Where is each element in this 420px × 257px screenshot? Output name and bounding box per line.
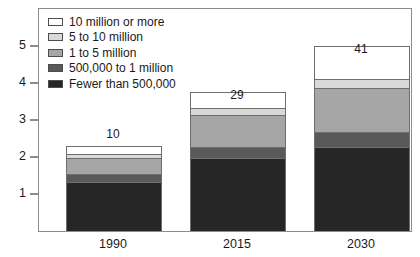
legend-label-fewer-than-500000: Fewer than 500,000 [69,78,176,90]
bar-2015-segment-fewer-than-500000 [191,158,285,231]
bar-1990-segment-10-million-or-more [67,147,161,154]
bar-2015-segment-1-to-5-million [191,115,285,147]
bar-2030-segment-500000-to-1-million [315,132,409,147]
bar-2030-segment-1-to-5-million [315,88,409,132]
bar-2030-segment-fewer-than-500000 [315,147,409,231]
bar-1990[interactable] [66,146,162,231]
x-axis-label-2015: 2015 [189,238,285,251]
legend-item-1-to-5-million: 1 to 5 million [48,45,176,61]
y-axis-label-1: 1 [0,187,26,199]
bar-2015-segment-5-to-10-million [191,108,285,115]
legend-item-5-to-10-million: 5 to 10 million [48,30,176,46]
bar-2015-segment-500000-to-1-million [191,147,285,158]
legend-swatch-icon-500000-to-1-million [48,64,63,72]
legend-swatch-icon-10-million-or-more [48,18,63,26]
legend-label-5-to-10-million: 5 to 10 million [69,31,143,43]
legend-label-1-to-5-million: 1 to 5 million [69,47,136,59]
bar-2030[interactable] [314,46,410,231]
x-axis-label-2030: 2030 [313,238,409,251]
bar-2030-segment-5-to-10-million [315,79,409,88]
legend-item-10-million-or-more: 10 million or more [48,14,176,30]
legend: 10 million or more 5 to 10 million 1 to … [48,14,176,92]
legend-item-500000-to-1-million: 500,000 to 1 million [48,61,176,77]
y-axis-label-3: 3 [0,113,26,125]
bar-value-label-1990: 10 [65,128,161,140]
legend-swatch-icon-fewer-than-500000 [48,80,63,88]
y-axis-label-4: 4 [0,76,26,88]
bar-value-label-2015: 29 [189,89,285,101]
y-axis-label-2: 2 [0,150,26,162]
bar-1990-segment-fewer-than-500000 [67,182,161,231]
bar-value-label-2030: 41 [313,43,409,55]
bar-1990-segment-1-to-5-million [67,158,161,174]
legend-item-fewer-than-500000: Fewer than 500,000 [48,76,176,92]
bar-2015[interactable] [190,92,286,231]
y-axis-label-5: 5 [0,39,26,51]
x-axis-label-1990: 1990 [65,238,161,251]
chart-container: 5 4 3 2 1 10 million or more 5 to 10 mil… [0,0,420,257]
legend-label-10-million-or-more: 10 million or more [69,16,164,28]
bar-1990-segment-500000-to-1-million [67,174,161,182]
legend-label-500000-to-1-million: 500,000 to 1 million [69,62,173,74]
legend-swatch-icon-1-to-5-million [48,49,63,57]
legend-swatch-icon-5-to-10-million [48,33,63,41]
